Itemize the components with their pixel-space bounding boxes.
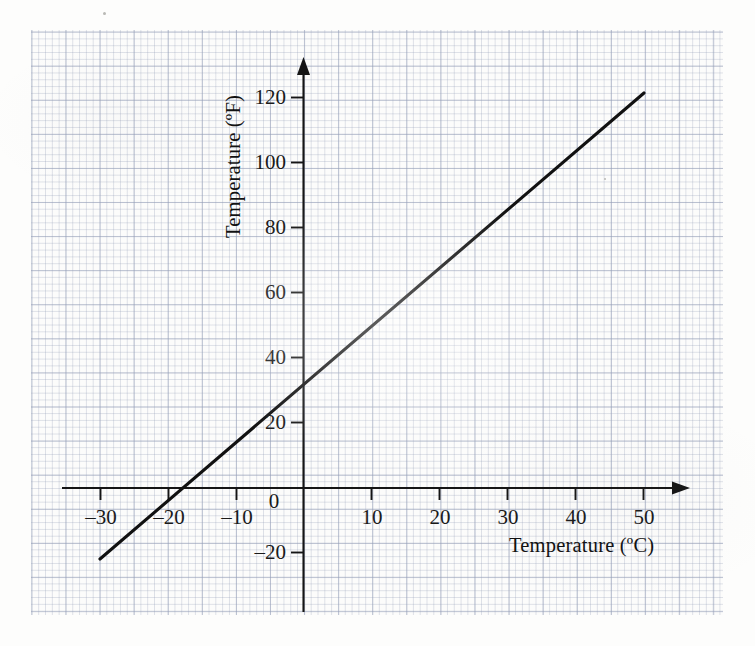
x-tick-label: –20	[142, 505, 196, 530]
x-tick-label: 50	[617, 505, 671, 530]
x-tick-label: 20	[413, 505, 467, 530]
y-tick-label: 40	[224, 345, 286, 370]
figure-canvas: –30 –20 –10 0 10 20 30 40 50 120 100 80 …	[0, 0, 755, 646]
y-tick-label: 20	[224, 410, 286, 435]
y-tick-label: 60	[224, 280, 286, 305]
x-tick-label: –30	[74, 505, 128, 530]
horizontal-axis	[62, 482, 690, 495]
y-tick-label: –20	[214, 540, 286, 565]
y-axis-ticks	[291, 98, 304, 553]
vertical-axis	[297, 57, 310, 612]
x-tick-label: 40	[549, 505, 603, 530]
x-tick-label: 10	[345, 505, 399, 530]
x-tick-label-origin: 0	[258, 489, 290, 514]
x-tick-label: –10	[210, 505, 264, 530]
y-axis-title: Temperature (ºF)	[222, 95, 245, 238]
x-tick-label: 30	[481, 505, 535, 530]
x-axis-title: Temperature (ºC)	[509, 534, 654, 557]
